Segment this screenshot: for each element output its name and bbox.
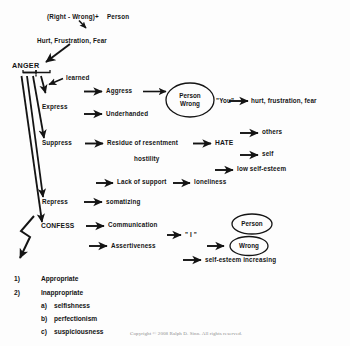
repress-label: Repress (42, 199, 68, 206)
sub-list-item-suspiciousness: suspiciousness (54, 328, 103, 335)
plus-symbol: + (95, 14, 99, 21)
copyright-notice: Copyright © 2008 Ralph D. Sinn. All righ… (130, 331, 242, 336)
ellipse-person-wrong-top-label: Person Wrong (172, 86, 208, 114)
sub-list-item-perfectionism: perfectionism (54, 315, 97, 322)
sub-list-marker-b: b) (41, 315, 47, 322)
loneliness-label: loneliness (194, 179, 226, 186)
suppress-label: Suppress (42, 140, 72, 147)
ellipse-bottom-person-text: Person (241, 220, 262, 229)
connector-confess-zigzag (20, 216, 34, 258)
anger-label: ANGER (12, 62, 39, 70)
anger-flow-diagram: (Right - Wrong) + Person Hurt, Frustrati… (0, 0, 350, 346)
ellipse-wrong-bottom-label: Wrong (231, 240, 267, 252)
lack-of-support-label: Lack of support (117, 179, 166, 186)
underhanded-label: Underhanded (106, 111, 148, 118)
sub-list-item-selfishness: selfishness (54, 302, 90, 309)
sub-list-marker-c: c) (41, 328, 47, 335)
learned-label: learned (66, 75, 89, 82)
communication-label: Communication (108, 222, 158, 229)
low-self-esteem-label: low self-esteem (237, 166, 286, 173)
list-marker-1: 1) (14, 275, 20, 282)
ellipse-top-person-text: Person (179, 92, 200, 101)
connector-learned (49, 79, 63, 85)
feelings-label: Hurt, Frustration, Fear (37, 38, 107, 45)
assertiveness-label: Assertiveness (111, 243, 156, 250)
confess-label: CONFESS (41, 222, 74, 229)
self-esteem-increasing-label: self-esteem increasing (205, 257, 276, 264)
somatizing-label: somatizing (106, 199, 140, 206)
hate-label: HATE (215, 139, 233, 146)
ellipse-bottom-wrong-text: Wrong (239, 242, 259, 251)
express-label: Express (42, 104, 68, 111)
premise-label: (Right - Wrong) (47, 14, 95, 21)
you-label: "You" (216, 98, 234, 105)
hostility-label: hostility (134, 156, 160, 163)
residue-label: Residue of resentment (107, 140, 178, 147)
i-statement-label: " I " (185, 232, 197, 239)
connector-premise-to-feelings (79, 21, 86, 29)
hate-self-label: self (262, 151, 273, 158)
list-item-inappropriate: Inappropriate (41, 289, 83, 296)
aggress-label: Aggress (106, 88, 132, 95)
ellipse-top-wrong-text: Wrong (180, 100, 200, 109)
person-label: Person (107, 14, 129, 21)
ellipse-person-bottom-label: Person (234, 218, 270, 230)
list-marker-2: 2) (14, 289, 20, 296)
list-item-appropriate: Appropriate (41, 275, 78, 282)
connector-feelings-to-anger (46, 44, 70, 62)
outcome-label: hurt, frustration, fear (251, 98, 317, 105)
sub-list-marker-a: a) (41, 302, 47, 309)
hate-others-label: others (262, 129, 282, 136)
anger-bracket (23, 70, 50, 77)
